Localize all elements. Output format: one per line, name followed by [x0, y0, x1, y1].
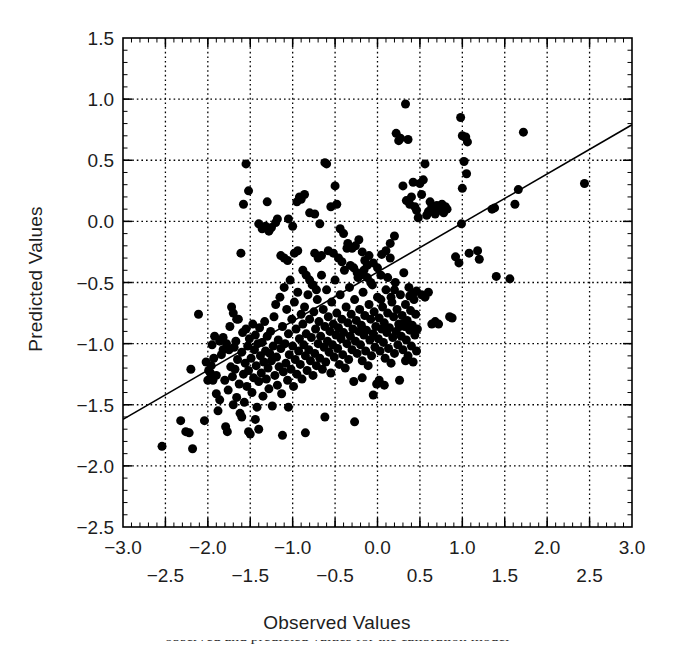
svg-text:1.5: 1.5	[88, 28, 114, 49]
svg-text:0.0: 0.0	[364, 537, 390, 558]
scatter-plot: 1.51.00.50.0−0.5−1.0−1.5−2.0−2.5−3.0−2.0…	[0, 0, 674, 653]
caption-text: observed and predicted values for the ca…	[0, 640, 674, 645]
svg-text:−2.0: −2.0	[189, 537, 227, 558]
gridlines	[123, 38, 632, 527]
svg-text:−1.5: −1.5	[76, 395, 114, 416]
svg-text:2.0: 2.0	[534, 537, 560, 558]
svg-text:1.0: 1.0	[88, 89, 114, 110]
x-axis-title: Observed Values	[0, 612, 674, 634]
svg-text:2.5: 2.5	[576, 565, 602, 586]
svg-text:0.0: 0.0	[88, 211, 114, 232]
svg-text:1.5: 1.5	[492, 565, 518, 586]
data-points-layer	[158, 100, 589, 454]
figure-container: 1.51.00.50.0−0.5−1.0−1.5−2.0−2.5−3.0−2.0…	[0, 0, 674, 653]
svg-text:−1.0: −1.0	[274, 537, 312, 558]
cropped-caption: observed and predicted values for the ca…	[0, 640, 674, 653]
svg-text:3.0: 3.0	[619, 537, 645, 558]
svg-text:−3.0: −3.0	[104, 537, 142, 558]
svg-text:−2.5: −2.5	[76, 517, 114, 538]
y-axis-title: Predicted Values	[25, 159, 47, 399]
svg-text:−0.5: −0.5	[316, 565, 354, 586]
svg-text:−1.5: −1.5	[231, 565, 269, 586]
svg-text:1.0: 1.0	[449, 537, 475, 558]
svg-text:−0.5: −0.5	[76, 273, 114, 294]
svg-text:0.5: 0.5	[407, 565, 433, 586]
svg-text:−2.5: −2.5	[147, 565, 185, 586]
svg-text:−2.0: −2.0	[76, 456, 114, 477]
svg-text:0.5: 0.5	[88, 150, 114, 171]
svg-text:−1.0: −1.0	[76, 334, 114, 355]
